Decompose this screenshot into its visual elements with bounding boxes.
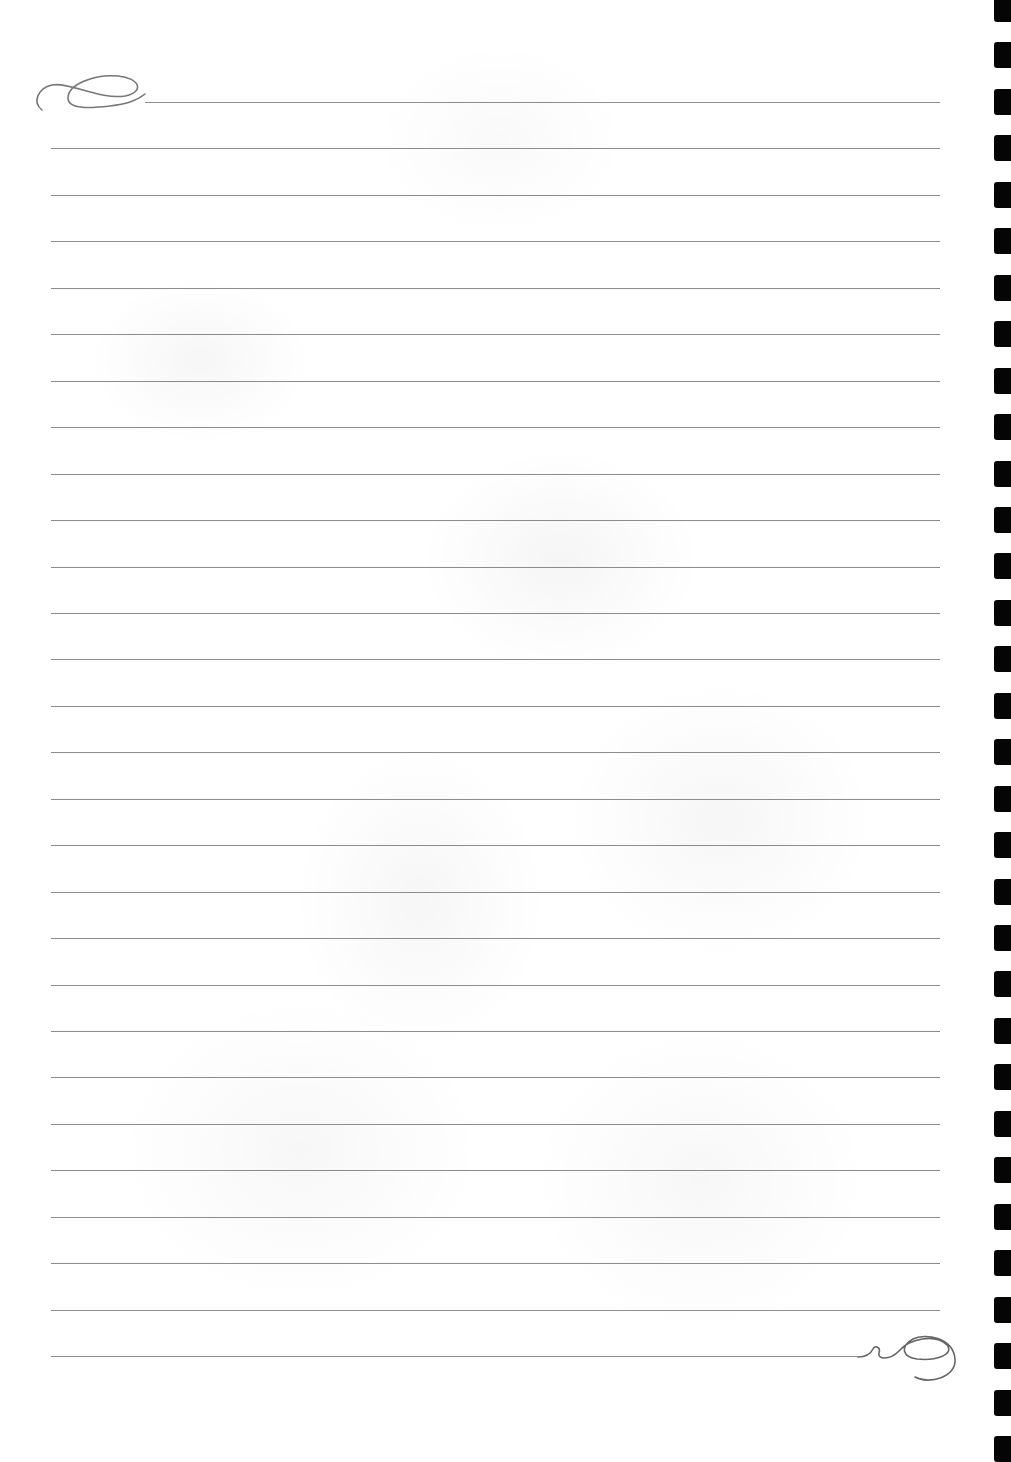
ruled-line (51, 659, 940, 660)
binder-hole-tab (994, 600, 1011, 626)
binder-hole-tab (994, 925, 1011, 951)
ruled-line (51, 288, 940, 289)
bottom-right-flourish-icon (855, 1325, 965, 1390)
binder-hole-tab (994, 0, 1011, 22)
binder-hole-tab (994, 832, 1011, 858)
ruled-line (51, 1170, 940, 1171)
binder-hole-tab (994, 1297, 1011, 1323)
ruled-line (51, 1263, 940, 1264)
ruled-line (51, 845, 940, 846)
ruled-line (51, 706, 940, 707)
ruled-line (51, 334, 940, 335)
binder-hole-tab (994, 275, 1011, 301)
ruled-line (51, 567, 940, 568)
binder-hole-tab (994, 1343, 1011, 1369)
binder-hole-tab (994, 414, 1011, 440)
binder-hole-tab (994, 1157, 1011, 1183)
ruled-line (51, 892, 940, 893)
binder-hole-tab (994, 228, 1011, 254)
ruled-line (51, 1356, 858, 1357)
binder-hole-tab (994, 786, 1011, 812)
ruled-line (51, 195, 940, 196)
binder-hole-tab (994, 368, 1011, 394)
ruled-line (51, 474, 940, 475)
ruled-line (51, 799, 940, 800)
binder-hole-tab (994, 135, 1011, 161)
ruled-line (51, 520, 940, 521)
notebook-page (0, 0, 1011, 1462)
binder-hole-tab (994, 1436, 1011, 1462)
binder-hole-tab (994, 89, 1011, 115)
binder-hole-tab (994, 461, 1011, 487)
binder-hole-tab (994, 739, 1011, 765)
ruled-line (51, 985, 940, 986)
binder-hole-tab (994, 321, 1011, 347)
binder-hole-tab (994, 507, 1011, 533)
ruled-line (51, 613, 940, 614)
ruled-line (145, 102, 940, 103)
ruled-line (51, 381, 940, 382)
ruled-line (51, 1124, 940, 1125)
binder-hole-tab (994, 646, 1011, 672)
binder-hole-tab (994, 553, 1011, 579)
binder-hole-tab (994, 971, 1011, 997)
ruled-line (51, 148, 940, 149)
ruled-line (51, 427, 940, 428)
binder-hole-tab (994, 879, 1011, 905)
ruled-line (51, 1310, 940, 1311)
ruled-line (51, 752, 940, 753)
top-left-flourish-icon (30, 70, 160, 120)
binder-hole-tab (994, 42, 1011, 68)
binder-hole-tab (994, 182, 1011, 208)
ruled-line (51, 1031, 940, 1032)
binder-hole-tab (994, 1250, 1011, 1276)
binder-hole-tab (994, 1390, 1011, 1416)
binder-hole-tab (994, 1018, 1011, 1044)
ruled-line (51, 1077, 940, 1078)
binder-hole-tab (994, 1111, 1011, 1137)
ruled-line (51, 1217, 940, 1218)
binder-hole-tab (994, 1204, 1011, 1230)
ruled-line (51, 241, 940, 242)
binder-hole-tab (994, 693, 1011, 719)
binder-hole-tab (994, 1064, 1011, 1090)
ruled-line (51, 938, 940, 939)
